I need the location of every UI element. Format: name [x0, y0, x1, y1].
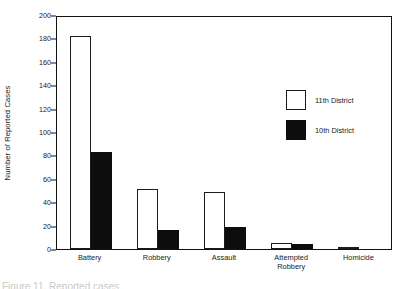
y-tick-label: 0	[18, 246, 51, 253]
x-tick-label: Assault	[190, 253, 257, 262]
y-tick-label: 20	[18, 223, 51, 230]
bar	[338, 247, 359, 249]
plot-area: 11th District10th District	[56, 16, 392, 250]
legend-item: 10th District	[286, 119, 406, 141]
x-axis-tick-labels: BatteryRobberyAssaultAttempted RobberyHo…	[56, 253, 392, 279]
y-tick-label: 140	[18, 83, 51, 90]
bar	[91, 152, 112, 249]
bar	[225, 227, 246, 249]
chart-legend: 11th District10th District	[286, 89, 406, 149]
y-tick-label: 180	[18, 36, 51, 43]
legend-swatch-light	[286, 90, 306, 110]
bar	[292, 244, 313, 249]
x-tick-label: Homicide	[325, 253, 392, 262]
y-tick-label: 160	[18, 59, 51, 66]
legend-swatch-dark	[286, 120, 306, 140]
y-tick-label: 120	[18, 106, 51, 113]
bar	[158, 230, 179, 249]
legend-label: 11th District	[315, 96, 353, 105]
x-tick-label: Battery	[56, 253, 123, 262]
y-tick-label: 60	[18, 176, 51, 183]
bar	[137, 189, 158, 249]
x-tick-label: Attempted Robbery	[258, 253, 325, 271]
y-tick-label: 80	[18, 153, 51, 160]
legend-item: 11th District	[286, 89, 406, 111]
y-tick-label: 40	[18, 200, 51, 207]
x-tick-label: Robbery	[123, 253, 190, 262]
bar-chart-figure: Number of Reported Cases 200180160140120…	[0, 0, 407, 289]
bar	[271, 243, 292, 249]
legend-label: 10th District	[315, 126, 354, 135]
y-tick-label: 100	[18, 129, 51, 136]
y-tick-label: 200	[18, 12, 51, 19]
figure-caption: Figure 11. Reported cases	[2, 281, 402, 289]
y-axis-tick-labels: 200180160140120100806040200	[18, 0, 51, 289]
bar	[204, 192, 225, 249]
y-axis-title: Number of Reported Cases	[0, 16, 14, 250]
bar	[70, 36, 91, 249]
